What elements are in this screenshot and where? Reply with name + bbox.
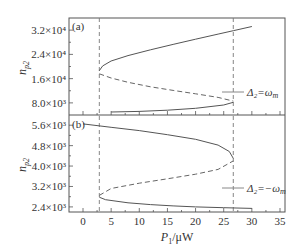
svg-text:np2: np2 [15, 158, 31, 172]
x-tick-label: 35 [275, 215, 287, 227]
x-tick-label: 15 [162, 215, 174, 227]
x-tick-label: 25 [218, 215, 230, 227]
x-tick-label: 30 [246, 215, 258, 227]
x-axis-title: P1/μW [160, 230, 194, 246]
svg-text:Δ₂=ωm: Δ₂=ωm [246, 86, 278, 100]
y-tick-label: 8.0×10³ [32, 97, 67, 109]
legend-a: Δ₂=ωm [222, 86, 278, 100]
y-tick-label: 5.6×10³ [32, 119, 67, 131]
y-axis-title-a: np2 [15, 61, 31, 75]
bistability-chart: 8.0×10³1.6×10⁴2.4×10⁴3.2×10⁴2.4×10³3.2×1… [0, 0, 301, 250]
y-tick-label: 4.0×10³ [32, 160, 67, 172]
svg-text:np2: np2 [15, 61, 31, 75]
y-tick-label: 2.4×10³ [32, 201, 67, 213]
y-tick-label: 3.2×10³ [32, 180, 67, 192]
y-axis-title-b: np2 [15, 158, 31, 172]
legend-b: Δ₂=−ωm [222, 182, 286, 196]
data-curves [83, 27, 252, 209]
y-tick-label: 1.6×10⁴ [31, 73, 66, 85]
x-tick-label: 0 [80, 215, 86, 227]
x-tick-label: 20 [190, 215, 202, 227]
y-tick-label: 3.2×10⁴ [31, 24, 66, 36]
svg-text:Δ₂=−ωm: Δ₂=−ωm [246, 182, 286, 196]
panel-label-a: (a) [72, 20, 85, 33]
x-tick-label: 5 [108, 215, 114, 227]
x-tick-label: 10 [134, 215, 146, 227]
y-tick-label: 4.8×10³ [32, 140, 67, 152]
y-tick-label: 2.4×10⁴ [31, 48, 66, 60]
panel-label-b: (b) [72, 118, 85, 131]
